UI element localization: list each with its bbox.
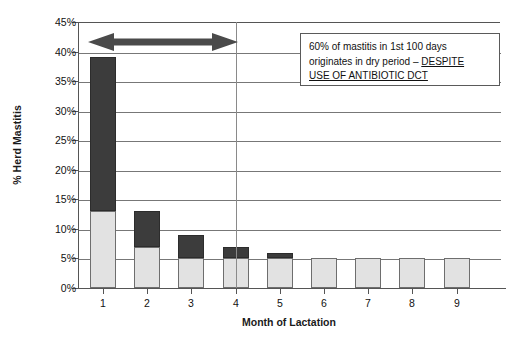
y-tick-label: 10% (38, 223, 76, 235)
bar-segment-dry-1 (90, 57, 116, 211)
y-tick-label: 0% (38, 282, 76, 294)
bar-segment-dry-3 (178, 235, 204, 259)
x-tick-mark (147, 288, 148, 294)
x-tick-mark (457, 288, 458, 294)
double-headed-arrow-icon (88, 31, 238, 53)
chart-container: % Herd Mastitis 45% 40% 35% 30% 25% 20% … (0, 0, 519, 340)
x-tick-label: 8 (392, 297, 432, 309)
x-axis-title: Month of Lactation (78, 316, 500, 328)
callout-textbox: 60% of mastitis in 1st 100 days originat… (300, 33, 500, 86)
x-tick-mark (236, 288, 237, 294)
callout-line-3: USE OF ANTIBIOTIC DCT (309, 69, 492, 84)
y-tick-label: 15% (38, 193, 76, 205)
callout-line-2: originates in dry period – DESPITE (309, 55, 492, 70)
y-tick-label: 20% (38, 164, 76, 176)
bar-segment-dry-5 (267, 253, 293, 259)
x-tick-label: 9 (437, 297, 477, 309)
callout-line-1: 60% of mastitis in 1st 100 days (309, 40, 492, 55)
hundred-day-divider-line (236, 22, 237, 288)
gridline (79, 112, 501, 113)
bar-segment-dry-2 (134, 211, 160, 247)
y-tick-label: 5% (38, 252, 76, 264)
x-tick-label: 1 (83, 297, 123, 309)
bar-segment-lactation-1 (90, 211, 116, 288)
x-tick-label: 3 (171, 297, 211, 309)
bar-segment-lactation-6 (311, 258, 337, 288)
callout-line-2-plain: originates in dry period – (309, 56, 421, 67)
x-tick-mark (280, 288, 281, 294)
x-tick-mark (103, 288, 104, 294)
x-tick-mark (191, 288, 192, 294)
y-tick-label: 30% (38, 105, 76, 117)
x-tick-label: 2 (127, 297, 167, 309)
bar-segment-lactation-3 (178, 258, 204, 288)
x-tick-label: 5 (260, 297, 300, 309)
gridline (79, 141, 501, 142)
bar-segment-lactation-2 (134, 247, 160, 288)
bar-segment-lactation-5 (267, 258, 293, 288)
gridline (79, 171, 501, 172)
callout-line-2-underlined: DESPITE (421, 56, 464, 67)
bar-segment-lactation-8 (399, 258, 425, 288)
y-tick-label: 45% (38, 16, 76, 28)
x-tick-label: 7 (348, 297, 388, 309)
bar-segment-lactation-9 (444, 258, 470, 288)
x-axis-line (78, 288, 506, 289)
x-tick-label: 4 (216, 297, 256, 309)
y-tick-label: 35% (38, 75, 76, 87)
x-tick-label: 6 (304, 297, 344, 309)
x-tick-mark (412, 288, 413, 294)
x-tick-mark (324, 288, 325, 294)
y-axis-ticks: 45% 40% 35% 30% 25% 20% 15% 10% 5% 0% (0, 0, 76, 340)
bar-segment-lactation-7 (355, 258, 381, 288)
gridline (79, 200, 501, 201)
y-tick-label: 40% (38, 46, 76, 58)
x-tick-mark (368, 288, 369, 294)
y-tick-label: 25% (38, 134, 76, 146)
